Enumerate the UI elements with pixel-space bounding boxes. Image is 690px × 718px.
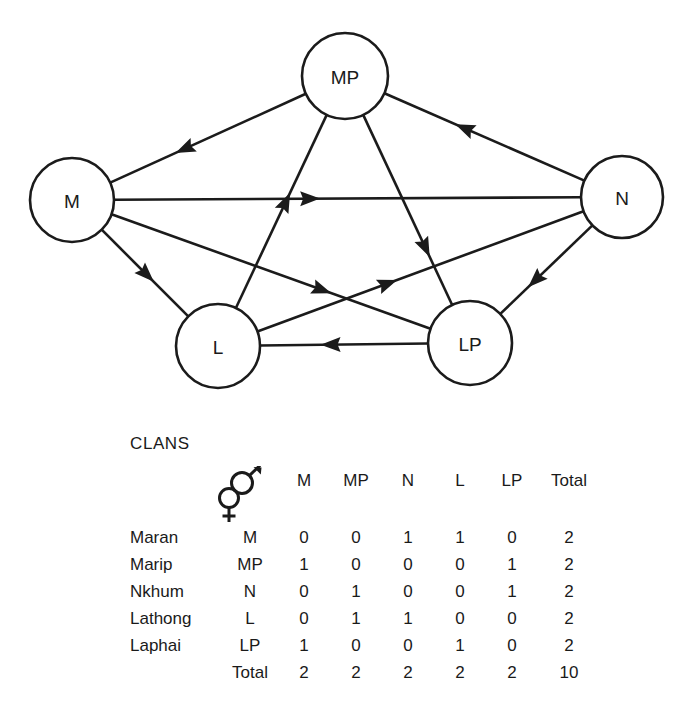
row-total-lp: 2 xyxy=(538,632,600,659)
clan-code-l: L xyxy=(222,605,278,632)
arrowhead-m-n xyxy=(300,191,320,206)
cell-m-m: 0 xyxy=(278,524,330,551)
matrix-spacer-row xyxy=(130,496,600,524)
cell-l-n: 1 xyxy=(382,605,434,632)
node-label-m: M xyxy=(64,191,80,212)
node-label-l: L xyxy=(213,337,224,358)
totals-row-blank xyxy=(130,659,222,686)
clan-name-mp: Marip xyxy=(130,551,222,578)
cell-lp-m: 1 xyxy=(278,632,330,659)
column-header-m: M xyxy=(278,466,330,496)
grand-total: 10 xyxy=(538,659,600,686)
clan-code-n: N xyxy=(222,578,278,605)
cell-l-lp: 0 xyxy=(486,605,538,632)
cell-m-mp: 0 xyxy=(330,524,382,551)
cell-n-l: 0 xyxy=(434,578,486,605)
table-row: NkhumN010012 xyxy=(130,578,600,605)
node-label-n: N xyxy=(615,188,629,209)
clans-table-block: CLANS MMPNLLPTotalMaranM001102MaripMP100… xyxy=(0,420,690,718)
cell-m-n: 1 xyxy=(382,524,434,551)
matrix-header-row: MMPNLLPTotal xyxy=(130,466,600,496)
row-total-l: 2 xyxy=(538,605,600,632)
edge-m-to-l xyxy=(102,230,189,317)
table-row: MaranM001102 xyxy=(130,524,600,551)
cell-n-mp: 1 xyxy=(330,578,382,605)
column-total-m: 2 xyxy=(278,659,330,686)
table-row: LathongL011002 xyxy=(130,605,600,632)
matrix-totals-row: Total2222210 xyxy=(130,659,600,686)
clan-matrix-table: MMPNLLPTotalMaranM001102MaripMP100012Nkh… xyxy=(130,466,600,686)
edges-layer xyxy=(102,93,593,352)
figure-root: MMPNLLP CLANS MMPNLLPTotalMa xyxy=(0,0,690,718)
edge-lp-to-l xyxy=(260,337,428,352)
header-gender-corner xyxy=(222,466,278,496)
column-header-l: L xyxy=(434,466,486,496)
clan-name-n: Nkhum xyxy=(130,578,222,605)
edge-mp-to-m xyxy=(110,94,306,183)
clan-code-lp: LP xyxy=(222,632,278,659)
cell-mp-l: 0 xyxy=(434,551,486,578)
cell-m-lp: 0 xyxy=(486,524,538,551)
column-header-total: Total xyxy=(538,466,600,496)
cell-n-lp: 1 xyxy=(486,578,538,605)
cell-mp-m: 1 xyxy=(278,551,330,578)
matrix-spacer-cell xyxy=(130,496,600,524)
node-n[interactable]: N xyxy=(581,156,663,238)
column-total-mp: 2 xyxy=(330,659,382,686)
node-l[interactable]: L xyxy=(176,304,260,388)
cell-lp-lp: 0 xyxy=(486,632,538,659)
column-total-lp: 2 xyxy=(486,659,538,686)
clan-code-mp: MP xyxy=(222,551,278,578)
table-row: LaphaiLP100102 xyxy=(130,632,600,659)
edge-m-to-n xyxy=(114,191,581,206)
clan-name-lp: Laphai xyxy=(130,632,222,659)
edge-l-to-mp xyxy=(236,115,327,308)
cell-mp-mp: 0 xyxy=(330,551,382,578)
totals-row-label: Total xyxy=(222,659,278,686)
node-label-mp: MP xyxy=(331,67,360,88)
row-total-m: 2 xyxy=(538,524,600,551)
cell-l-m: 0 xyxy=(278,605,330,632)
cell-l-l: 0 xyxy=(434,605,486,632)
node-label-lp: LP xyxy=(458,334,481,355)
column-header-lp: LP xyxy=(486,466,538,496)
edge-n-to-lp xyxy=(500,225,592,314)
clan-name-m: Maran xyxy=(130,524,222,551)
cell-n-n: 0 xyxy=(382,578,434,605)
cell-mp-lp: 1 xyxy=(486,551,538,578)
row-total-mp: 2 xyxy=(538,551,600,578)
table-row: MaripMP100012 xyxy=(130,551,600,578)
clans-caption: CLANS xyxy=(130,434,190,454)
node-lp[interactable]: LP xyxy=(428,301,512,385)
nodes-layer: MMPNLLP xyxy=(30,33,663,388)
header-corner-blank xyxy=(130,466,222,496)
clan-name-l: Lathong xyxy=(130,605,222,632)
cell-lp-mp: 0 xyxy=(330,632,382,659)
column-total-n: 2 xyxy=(382,659,434,686)
column-total-l: 2 xyxy=(434,659,486,686)
column-header-n: N xyxy=(382,466,434,496)
clan-code-m: M xyxy=(222,524,278,551)
cell-lp-n: 0 xyxy=(382,632,434,659)
cell-mp-n: 0 xyxy=(382,551,434,578)
cell-lp-l: 1 xyxy=(434,632,486,659)
arrowhead-lp-l xyxy=(321,337,341,352)
edge-l-to-n xyxy=(257,211,583,331)
clan-network-diagram: MMPNLLP xyxy=(0,0,690,420)
node-mp[interactable]: MP xyxy=(302,33,388,119)
cell-l-mp: 1 xyxy=(330,605,382,632)
column-header-mp: MP xyxy=(330,466,382,496)
edge-n-to-mp xyxy=(384,93,584,180)
node-m[interactable]: M xyxy=(30,158,114,242)
cell-m-l: 1 xyxy=(434,524,486,551)
row-total-n: 2 xyxy=(538,578,600,605)
cell-n-m: 0 xyxy=(278,578,330,605)
